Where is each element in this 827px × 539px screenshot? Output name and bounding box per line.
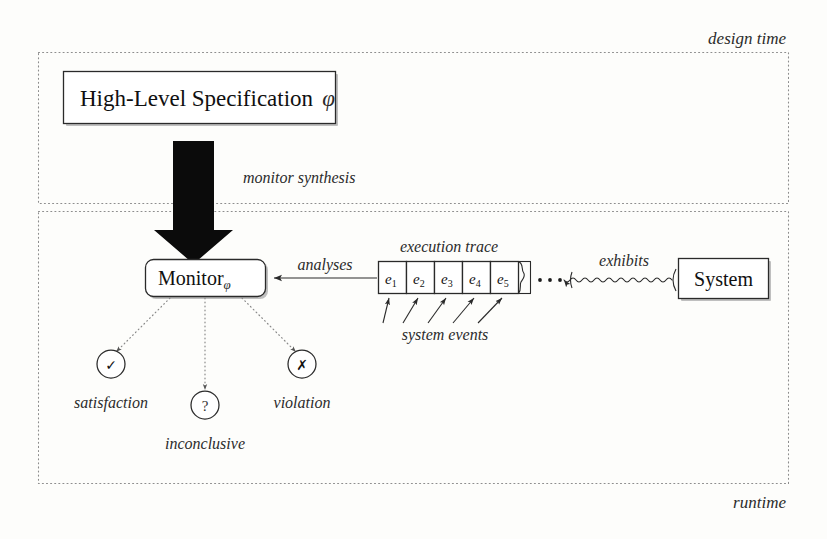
monitor-phi-subscript: φ	[224, 277, 231, 292]
system-label: System	[694, 268, 753, 291]
trace-cell: e1	[379, 262, 407, 294]
inconclusive-label: inconclusive	[165, 435, 245, 452]
monitor-node[interactable]: Monitorφ	[146, 260, 269, 300]
system-events-label: system events	[402, 326, 489, 344]
diagram-canvas: design time runtime High-Level Specifica…	[0, 0, 827, 539]
exhibits-arrow	[564, 269, 676, 291]
check-icon: ✓	[105, 357, 117, 373]
runtime-verification-diagram: design time runtime High-Level Specifica…	[0, 0, 827, 539]
verdict-connectors	[116, 298, 296, 390]
monitor-synthesis-label: monitor synthesis	[243, 169, 355, 187]
system-events-callout: system events	[383, 298, 502, 344]
question-icon: ?	[202, 398, 209, 414]
analyses-label: analyses	[297, 256, 352, 274]
specification-label: High-Level Specificationφ	[80, 86, 335, 111]
specification-phi-symbol: φ	[322, 86, 335, 111]
specification-node[interactable]: High-Level Specificationφ	[64, 72, 339, 127]
monitor-label: Monitorφ	[158, 267, 231, 292]
monitor-synthesis-arrow	[154, 141, 233, 264]
system-node[interactable]: System	[679, 259, 772, 302]
satisfaction-label: satisfaction	[74, 394, 148, 412]
trace-ragged-edge	[519, 262, 532, 294]
verdict-inconclusive[interactable]: ? inconclusive	[165, 391, 245, 452]
design-time-label: design time	[708, 29, 786, 48]
verdict-satisfaction[interactable]: ✓ satisfaction	[74, 350, 148, 412]
cross-icon: ✗	[296, 357, 308, 373]
trace-cell: e5	[491, 262, 519, 294]
violation-label: violation	[274, 394, 331, 411]
runtime-label: runtime	[733, 493, 786, 512]
trace-cell: e4	[463, 262, 491, 294]
trace-continuation-dots	[538, 278, 562, 282]
verdict-violation[interactable]: ✗ violation	[274, 350, 331, 411]
execution-trace: e1 e2 e3 e4 e5	[379, 262, 532, 294]
execution-trace-title: execution trace	[400, 238, 498, 255]
exhibits-label: exhibits	[599, 252, 649, 269]
trace-cell: e2	[407, 262, 435, 294]
trace-cell: e3	[435, 262, 463, 294]
